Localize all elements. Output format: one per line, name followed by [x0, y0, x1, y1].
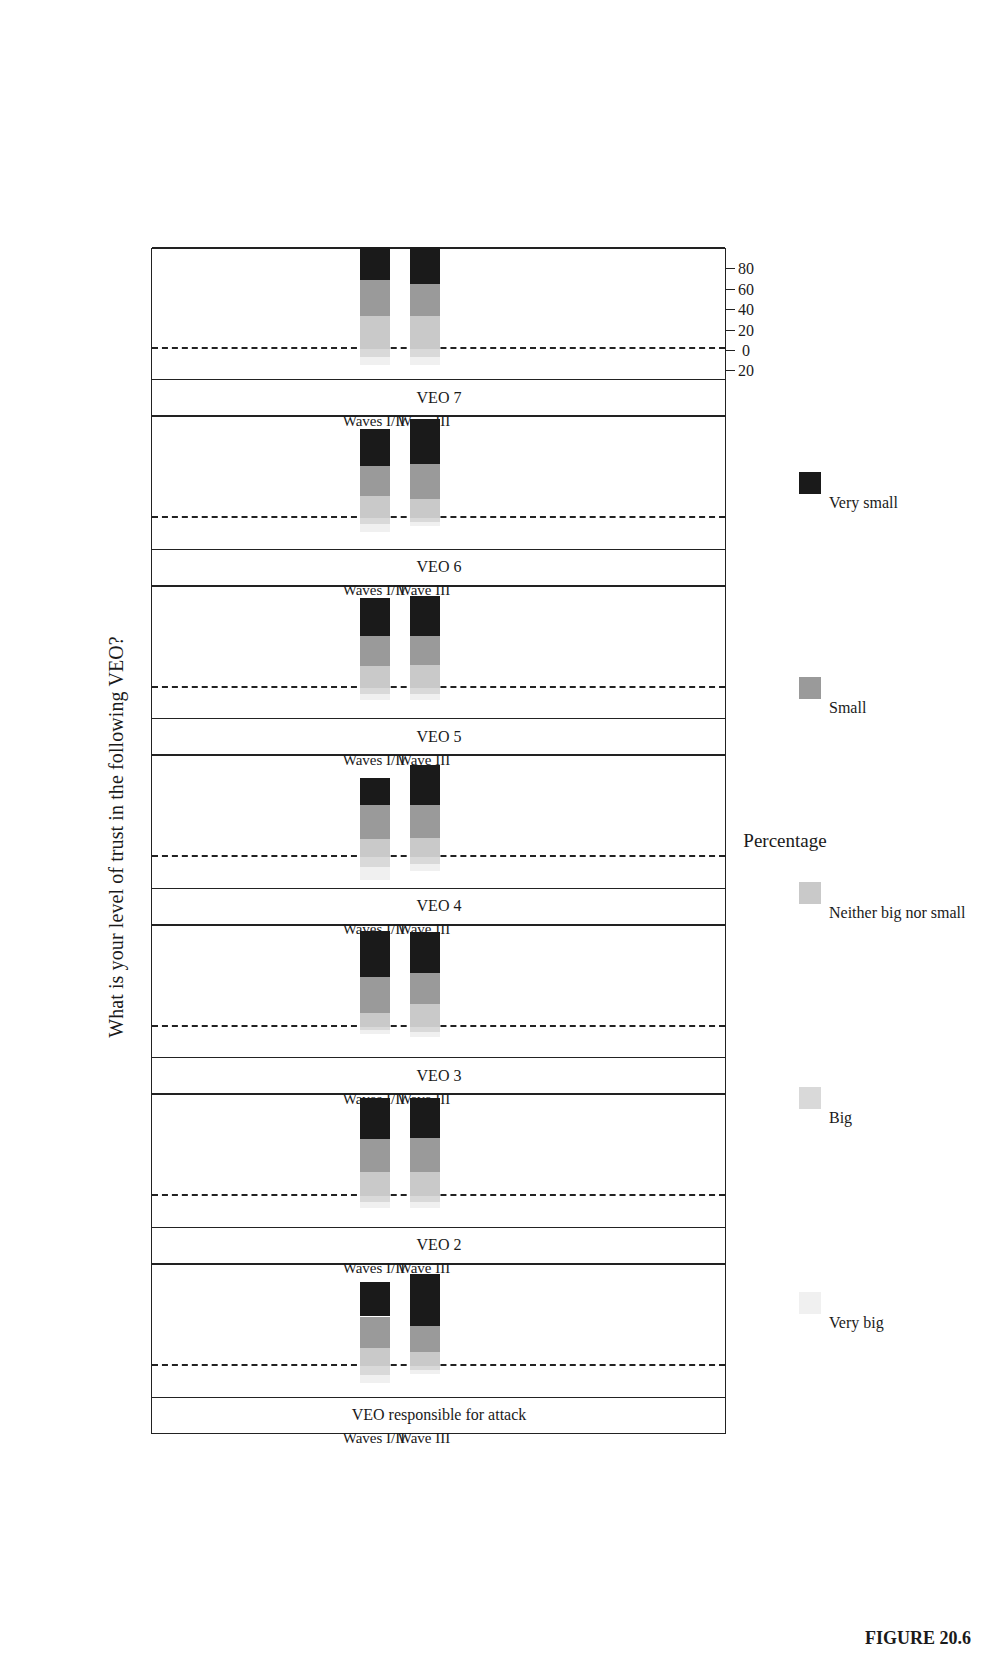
bar-segment-small [359, 976, 389, 1013]
bar-waves-i-ii [359, 925, 389, 1092]
wave-label-text: Wave III [397, 582, 450, 599]
bar-segment-small [359, 635, 389, 666]
bar-segment-very-small [359, 598, 389, 636]
legend-swatch [799, 472, 821, 494]
bar-wave-iii [409, 756, 439, 923]
bar-segment-small [409, 464, 439, 499]
bar-segment-small [359, 279, 389, 316]
bar-segment-very-big [359, 357, 389, 365]
legend-label: Neither big nor small [829, 767, 847, 903]
bar-wave-iii [409, 1264, 439, 1432]
bar-segment-very-small [409, 595, 439, 635]
legend-label-text: Very small [829, 494, 898, 512]
figure-stage: What is your level of trust in the follo… [99, 182, 899, 1492]
bar-segment-very-big [409, 1031, 439, 1036]
bar-wave-iii [409, 1095, 439, 1262]
legend: Very bigBigNeither big nor smallSmallVer… [799, 248, 859, 1434]
bar-segment-big [359, 1366, 389, 1374]
legend-swatch [799, 677, 821, 699]
wave-label-text: Wave III [397, 1090, 450, 1107]
bar-segment-very-small [409, 765, 439, 805]
bar-segment-very-big [359, 1202, 389, 1208]
axis-tick-label: 80 [738, 260, 754, 278]
legend-label: Small [829, 661, 847, 698]
panel-veo-3: VEO 3 [152, 924, 725, 1093]
bar-segment-big [409, 1196, 439, 1202]
bar-segment-neither-big-nor-small [409, 665, 439, 687]
bar-segment-very-big [359, 867, 389, 879]
bar-segment-neither-big-nor-small [359, 666, 389, 687]
bar-segment-small [409, 1325, 439, 1352]
bar-segment-very-big [359, 693, 389, 699]
axis-tick-label: 20 [738, 321, 754, 339]
bar-segment-very-small [409, 1273, 439, 1325]
wave-label-text: Waves I/II [342, 751, 405, 768]
legend-label: Very big [829, 1259, 847, 1314]
axis-tick-label: 40 [738, 301, 754, 319]
x-axis-title: Percentage [774, 248, 796, 1434]
bar-segment-small [409, 635, 439, 665]
bar-segment-big [359, 1196, 389, 1202]
bar-segment-big [359, 857, 389, 867]
bar-segment-neither-big-nor-small [409, 1171, 439, 1195]
bar-segment-big [359, 518, 389, 524]
legend-swatch [799, 882, 821, 904]
bar-segment-big [409, 687, 439, 693]
bar-waves-i-ii [359, 586, 389, 753]
bar-segment-very-big [359, 1029, 389, 1033]
bar-segment-very-small [359, 246, 389, 279]
bar-segment-very-big [409, 522, 439, 526]
bar-segment-very-small [359, 1281, 389, 1316]
bar-segment-big [359, 348, 389, 356]
bar-segment-very-big [409, 1202, 439, 1208]
axis-tick-label: 60 [738, 280, 754, 298]
axis-tick-label: 0 [742, 341, 750, 359]
legend-label: Very small [829, 425, 847, 494]
bar-waves-i-ii [359, 417, 389, 584]
bar-segment-big [359, 687, 389, 693]
bar-waves-i-ii [359, 248, 389, 415]
bar-segment-neither-big-nor-small [359, 1013, 389, 1026]
bar-segment-neither-big-nor-small [409, 1004, 439, 1026]
axis-tick [726, 349, 735, 350]
bar-segment-small [359, 1316, 389, 1348]
panel-veo-6: VEO 6 [152, 416, 725, 585]
bar-segment-very-big [359, 1374, 389, 1382]
wave-label-text: Wave III [397, 1429, 450, 1446]
bar-wave-iii [409, 925, 439, 1092]
bar-segment-neither-big-nor-small [409, 498, 439, 517]
bar-segment-small [409, 805, 439, 838]
bar-segment-neither-big-nor-small [359, 495, 389, 517]
panel-veo-7: VEO 7 [152, 247, 725, 416]
panel-veo-responsible-for-attack: VEO responsible for attack [152, 1263, 725, 1432]
bar-wave-iii [409, 417, 439, 584]
axis-tick-label: 20 [738, 362, 754, 380]
axis-tick [726, 329, 735, 330]
legend-label: Big [829, 1085, 847, 1108]
bar-segment-neither-big-nor-small [409, 837, 439, 856]
legend-swatch [799, 1087, 821, 1109]
bar-segment-neither-big-nor-small [359, 316, 389, 349]
wave-label-text: Wave III [397, 751, 450, 768]
bar-segment-very-big [359, 524, 389, 531]
wave-label-text: Waves I/II [342, 1260, 405, 1277]
bar-segment-small [409, 1137, 439, 1171]
bar-segment-very-big [409, 693, 439, 699]
bar-wave-iii [409, 248, 439, 415]
bar-segment-very-small [359, 428, 389, 466]
legend-label-text: Small [829, 699, 866, 717]
wave-label-text: Waves I/II [342, 1429, 405, 1446]
panel-veo-4: VEO 4 [152, 755, 725, 924]
bar-segment-big [409, 1026, 439, 1031]
legend-swatch [799, 1292, 821, 1314]
bar-waves-i-ii [359, 1095, 389, 1262]
bar-segment-neither-big-nor-small [409, 316, 439, 349]
legend-label-text: Big [829, 1109, 852, 1127]
wave-label-text: Waves I/II [342, 1090, 405, 1107]
bar-segment-small [359, 1138, 389, 1171]
bar-segment-small [409, 972, 439, 1004]
legend-label-text: Neither big nor small [829, 904, 965, 922]
bar-segment-neither-big-nor-small [359, 838, 389, 856]
bar-segment-very-big [409, 864, 439, 871]
bar-waves-i-ii [359, 756, 389, 923]
